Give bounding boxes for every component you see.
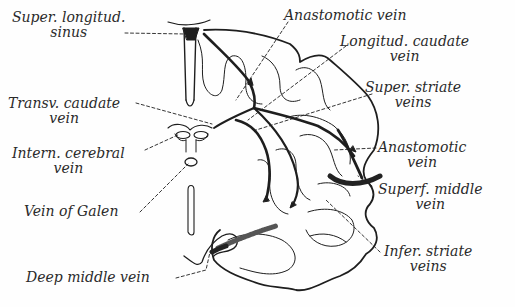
label-line: Anastomotic: [378, 140, 466, 155]
label-line: vein: [340, 49, 469, 64]
label-line: sinus: [12, 25, 125, 40]
label-line: vein: [12, 161, 125, 176]
label-line: Infer. striate: [384, 244, 472, 259]
label-intern-cerebral-vein: Intern. cerebral vein: [12, 146, 125, 176]
label-vein-of-galen: Vein of Galen: [24, 204, 118, 219]
label-super-longitud-sinus: Super. longitud. sinus: [12, 10, 125, 40]
label-line: vein: [8, 111, 120, 126]
label-line: vein: [378, 197, 483, 212]
label-line: Transv. caudate: [8, 96, 120, 111]
label-anastomotic-vein-right: Anastomotic vein: [378, 140, 466, 170]
label-anastomotic-vein-top: Anastomotic vein: [284, 8, 407, 23]
label-line: veins: [384, 259, 472, 274]
label-deep-middle-vein: Deep middle vein: [26, 270, 150, 285]
label-line: vein: [378, 155, 466, 170]
diagram-canvas: Super. longitud. sinus Anastomotic vein …: [0, 0, 515, 307]
label-line: veins: [365, 95, 461, 110]
label-longitud-caudate-vein: Longitud. caudate vein: [340, 34, 469, 64]
label-super-striate-veins: Super. striate veins: [365, 80, 461, 110]
label-superf-middle-vein: Superf. middle vein: [378, 182, 483, 212]
label-line: Super. striate: [365, 80, 461, 95]
label-infer-striate-veins: Infer. striate veins: [384, 244, 472, 274]
label-line: Deep middle vein: [26, 270, 150, 285]
label-line: Super. longitud.: [12, 10, 125, 25]
label-transv-caudate-vein: Transv. caudate vein: [8, 96, 120, 126]
label-line: Intern. cerebral: [12, 146, 125, 161]
label-line: Anastomotic vein: [284, 8, 407, 23]
label-line: Longitud. caudate: [340, 34, 469, 49]
label-line: Superf. middle: [378, 182, 483, 197]
label-line: Vein of Galen: [24, 204, 118, 219]
